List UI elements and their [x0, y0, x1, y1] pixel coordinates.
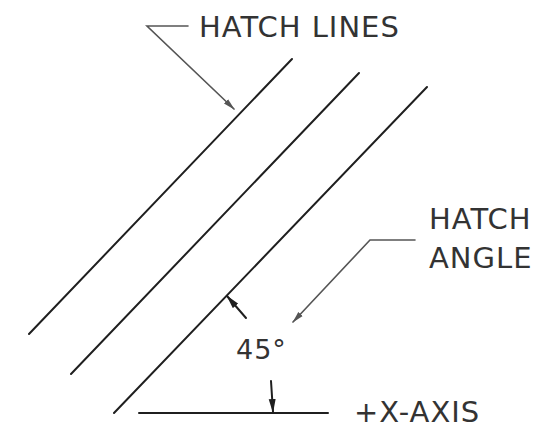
hatch-lines-group — [29, 59, 427, 413]
hatch-line-1 — [29, 59, 292, 334]
angle-arrow-to-hatch-line-icon — [227, 296, 246, 318]
hatch-angle-diagram: HATCH LINES HATCH ANGLE 45° +X-AXIS — [0, 0, 552, 440]
hatch-line-2 — [71, 73, 359, 374]
hatch-lines-label: HATCH LINES — [199, 10, 400, 44]
angle-value-label: 45° — [236, 334, 287, 365]
hatch-angle-label-line1: HATCH — [429, 202, 531, 236]
x-axis-label: +X-AXIS — [354, 395, 480, 429]
hatch-angle-leader-arrow-icon — [293, 240, 415, 322]
hatch-angle-label-line2: ANGLE — [429, 241, 532, 275]
hatch-angle-leader — [293, 240, 415, 322]
angle-arrow-to-x-axis-icon — [271, 381, 273, 412]
